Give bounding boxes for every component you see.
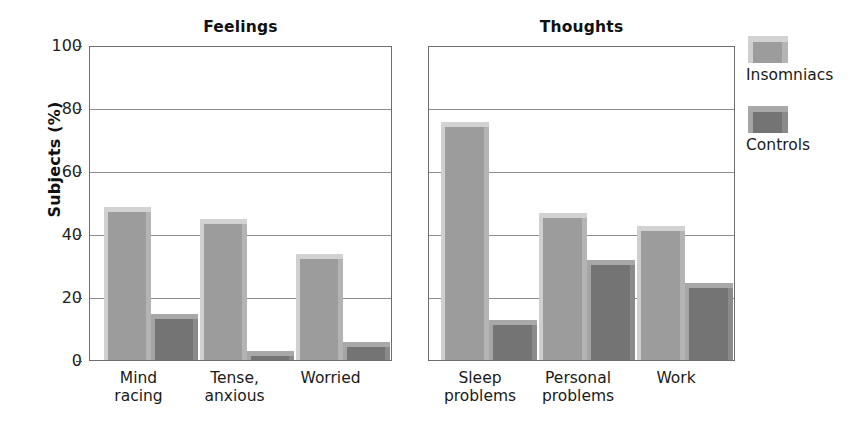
legend-swatch-insomniacs-icon [748,36,788,63]
bar-right-face [289,356,294,360]
x-category-label-work: Work [630,369,722,387]
bar-front-face [155,319,193,360]
legend-label-insomniacs: Insomniacs [746,66,856,84]
bar-thoughts-personal-problems-insomniacs [539,213,587,360]
gridline-80 [90,109,391,110]
x-category-label-personal-problems: Personal problems [532,369,624,405]
legend-swatch-controls-icon [748,106,788,133]
chart-legend: Insomniacs Controls [744,36,856,176]
y-tick-mark [76,109,82,110]
bar-right-face [532,325,537,360]
legend-item-insomniacs: Insomniacs [744,36,856,84]
y-tick-mark [76,46,82,47]
panel-title-feelings: Feelings [89,18,392,36]
x-category-label-sleep-problems: Sleep problems [434,369,526,405]
legend-item-controls: Controls [744,106,856,154]
bar-right-face [193,319,198,360]
y-tick-mark [76,235,82,236]
bar-feelings-tense-anxious-insomniacs [200,219,247,360]
bar-feelings-tense-anxious-controls [247,351,294,360]
x-category-label-mind-racing: Mind racing [96,369,181,405]
panel-title-thoughts: Thoughts [428,18,735,36]
y-tick-mark [76,361,82,362]
bar-right-face [728,288,733,360]
swatch-right-face [782,42,788,63]
bar-thoughts-personal-problems-controls [587,260,635,360]
bar-thoughts-sleep-problems-insomniacs [441,122,489,360]
bar-right-face [385,347,390,360]
legend-label-controls: Controls [746,136,856,154]
bar-feelings-mind-racing-controls [151,314,198,360]
x-category-label-worried: Worried [288,369,373,387]
chart-figure: Subjects (%) 100 80 60 40 20 0 Feelings [0,0,856,433]
bar-right-face [242,224,247,360]
bar-front-face [493,325,532,360]
swatch-front-face [753,112,782,133]
bar-thoughts-work-insomniacs [637,226,685,360]
bar-thoughts-sleep-problems-controls [489,320,537,360]
bar-feelings-worried-controls [343,342,390,360]
bar-front-face [347,347,385,360]
plot-panel-feelings [89,46,392,361]
bar-front-face [445,127,484,360]
bar-front-face [689,288,728,360]
bar-right-face [630,265,635,360]
bar-thoughts-work-controls [685,283,733,360]
y-tick-mark [76,172,82,173]
swatch-right-face [782,112,788,133]
gridline-80 [429,109,734,110]
x-category-label-tense-anxious: Tense, anxious [192,369,277,405]
plot-panel-thoughts [428,46,735,361]
bar-front-face [641,231,680,360]
swatch-front-face [753,42,782,63]
bar-front-face [108,212,146,360]
gridline-60 [90,172,391,173]
bar-front-face [300,259,338,360]
y-axis-ticks: 100 80 60 40 20 0 [36,0,82,433]
bar-front-face [251,356,289,360]
bar-front-face [543,218,582,360]
bar-feelings-mind-racing-insomniacs [104,207,151,360]
bar-front-face [591,265,630,360]
bar-front-face [204,224,242,360]
bar-feelings-worried-insomniacs [296,254,343,360]
y-tick-mark [76,298,82,299]
